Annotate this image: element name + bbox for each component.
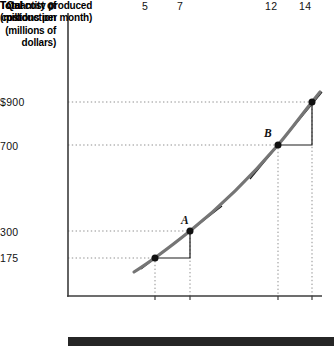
x-tick-label-5: 5 — [142, 0, 148, 12]
x-axis-title: Quantity produced (millions per month) — [0, 0, 92, 24]
y-axis-title-line4: dollars) — [0, 37, 56, 49]
point-marker-a — [187, 228, 194, 235]
x-tick-label-7: 7 — [177, 0, 183, 12]
bottom-rule-bar — [68, 337, 334, 346]
total-cost-figure: Total cost of production (millions of do… — [0, 0, 334, 346]
y-axis-title-line3: (millions of — [0, 25, 56, 37]
x-axis-title-line1: Quantity produced — [0, 0, 92, 12]
x-tick-label-12: 12 — [265, 0, 277, 12]
point-label-a: A — [181, 214, 189, 226]
y-tick-label-700: 700 — [0, 140, 18, 152]
point-marker-q5 — [152, 255, 159, 262]
y-tick-label-175: 175 — [0, 252, 18, 264]
chart-canvas — [0, 0, 334, 346]
point-marker-q14 — [309, 99, 316, 106]
total-cost-curve — [134, 92, 320, 272]
y-tick-label-300: 300 — [0, 226, 18, 238]
point-marker-b — [275, 142, 282, 149]
point-label-b: B — [264, 127, 272, 139]
y-tick-label-900: $900 — [0, 96, 25, 108]
x-tick-label-14: 14 — [299, 0, 311, 12]
x-axis-title-line2: (millions per month) — [0, 12, 92, 24]
